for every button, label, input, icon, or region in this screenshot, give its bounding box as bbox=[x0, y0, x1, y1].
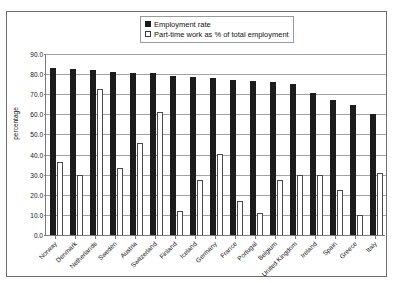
bar-group-portugal bbox=[246, 54, 266, 235]
x-axis-tick-mark bbox=[75, 236, 76, 239]
chart-legend: Employment rate Part-time work as % of t… bbox=[140, 16, 294, 43]
legend-label-part-time-work: Part-time work as % of total employment bbox=[154, 30, 289, 39]
y-axis-title: percentage bbox=[12, 94, 19, 154]
chart-frame: Employment rate Part-time work as % of t… bbox=[6, 11, 387, 277]
legend-swatch-hollow-square-icon bbox=[145, 31, 151, 37]
bar-group-switzerland bbox=[146, 54, 166, 235]
x-axis-tick-mark bbox=[255, 236, 256, 239]
bar-groups bbox=[46, 54, 386, 235]
legend-item-part-time-work: Part-time work as % of total employment bbox=[145, 29, 289, 39]
x-axis-label-portugal: Portugal bbox=[236, 240, 259, 263]
bar-employment-rate-united-kingdom bbox=[290, 84, 296, 235]
bar-employment-rate-germany bbox=[210, 78, 216, 235]
y-axis-tick-40-0: 40.0 bbox=[30, 152, 43, 159]
bar-part-time-finland bbox=[177, 211, 183, 235]
bar-group-greece bbox=[346, 54, 366, 235]
bar-group-belgium bbox=[266, 54, 286, 235]
x-axis-tick-mark bbox=[115, 236, 116, 239]
bar-employment-rate-denmark bbox=[70, 69, 76, 235]
x-axis-tick-mark bbox=[215, 236, 216, 239]
bar-part-time-france bbox=[237, 201, 243, 235]
x-axis-tick-mark bbox=[195, 236, 196, 239]
bar-part-time-denmark bbox=[77, 175, 83, 235]
bar-group-denmark bbox=[66, 54, 86, 235]
x-axis-tick-mark bbox=[275, 236, 276, 239]
bar-employment-rate-switzerland bbox=[150, 73, 156, 235]
bar-employment-rate-sweden bbox=[110, 72, 116, 235]
bar-group-norway bbox=[46, 54, 66, 235]
bar-part-time-netherlands bbox=[97, 89, 103, 235]
x-axis-label-greece: Greece bbox=[338, 240, 359, 261]
bar-group-italy bbox=[366, 54, 386, 235]
legend-item-employment-rate: Employment rate bbox=[145, 19, 289, 29]
y-axis-tick-labels: 90.080.070.060.050.040.030.020.010.00.0 bbox=[15, 48, 43, 242]
y-axis-tick-70-0: 70.0 bbox=[30, 91, 43, 98]
y-axis-tick-80-0: 80.0 bbox=[30, 71, 43, 78]
bar-part-time-belgium bbox=[277, 180, 283, 235]
x-axis-label-ireland: Ireland bbox=[299, 240, 319, 260]
bar-part-time-portugal bbox=[257, 213, 263, 235]
bar-group-ireland bbox=[306, 54, 326, 235]
x-axis-tick-mark bbox=[315, 236, 316, 239]
x-axis-tick-mark bbox=[355, 236, 356, 239]
bar-employment-rate-netherlands bbox=[90, 70, 96, 235]
y-axis-tick-50-0: 50.0 bbox=[30, 131, 43, 138]
y-axis-tick-60-0: 60.0 bbox=[30, 111, 43, 118]
bar-part-time-germany bbox=[217, 154, 223, 235]
bar-part-time-sweden bbox=[117, 168, 123, 235]
x-axis-tick-mark bbox=[55, 236, 56, 239]
x-axis-tick-mark bbox=[295, 236, 296, 239]
bar-group-germany bbox=[206, 54, 226, 235]
bar-employment-rate-france bbox=[230, 80, 236, 235]
bar-group-austria bbox=[126, 54, 146, 235]
y-axis-tick-10-0: 10.0 bbox=[30, 212, 43, 219]
bar-part-time-italy bbox=[377, 173, 383, 235]
cropped-title-remnant bbox=[0, 0, 394, 9]
bar-part-time-norway bbox=[57, 162, 63, 235]
bar-group-sweden bbox=[106, 54, 126, 235]
legend-label-employment-rate: Employment rate bbox=[154, 20, 211, 29]
bar-employment-rate-austria bbox=[130, 73, 136, 235]
bar-employment-rate-greece bbox=[350, 105, 356, 235]
bar-employment-rate-norway bbox=[50, 68, 56, 235]
x-axis-label-italy: Italy bbox=[365, 240, 379, 254]
bar-part-time-greece bbox=[357, 215, 363, 235]
x-axis-tick-mark bbox=[135, 236, 136, 239]
x-axis-tick-mark bbox=[155, 236, 156, 239]
bar-part-time-spain bbox=[337, 190, 343, 235]
bar-employment-rate-finland bbox=[170, 76, 176, 235]
x-axis-tick-mark bbox=[95, 236, 96, 239]
bar-employment-rate-iceland bbox=[190, 77, 196, 235]
y-axis-tick-20-0: 20.0 bbox=[30, 192, 43, 199]
bar-employment-rate-belgium bbox=[270, 82, 276, 235]
x-axis-label-spain: Spain bbox=[321, 240, 338, 257]
x-axis-tick-mark bbox=[375, 236, 376, 239]
bar-group-france bbox=[226, 54, 246, 235]
x-axis-label-finland: Finland bbox=[158, 240, 179, 261]
x-axis-label-sweden: Sweden bbox=[96, 240, 118, 262]
bar-group-spain bbox=[326, 54, 346, 235]
x-axis-tick-mark bbox=[335, 236, 336, 239]
plot-area bbox=[45, 54, 385, 236]
bar-group-netherlands bbox=[86, 54, 106, 235]
bar-part-time-united-kingdom bbox=[297, 175, 303, 235]
x-axis-tick-mark bbox=[235, 236, 236, 239]
bar-group-finland bbox=[166, 54, 186, 235]
chart-screenshot: Employment rate Part-time work as % of t… bbox=[0, 0, 394, 283]
legend-swatch-filled-square-icon bbox=[145, 21, 151, 27]
bar-part-time-iceland bbox=[197, 180, 203, 235]
bar-employment-rate-spain bbox=[330, 100, 336, 235]
bar-part-time-austria bbox=[137, 143, 143, 236]
bar-group-iceland bbox=[186, 54, 206, 235]
bar-employment-rate-ireland bbox=[310, 93, 316, 235]
y-axis-tick-0-0: 0.0 bbox=[34, 232, 43, 239]
bar-group-united-kingdom bbox=[286, 54, 306, 235]
x-axis-label-germany: Germany bbox=[194, 240, 219, 265]
y-axis-tick-30-0: 30.0 bbox=[30, 172, 43, 179]
bar-part-time-switzerland bbox=[157, 112, 163, 235]
bar-employment-rate-italy bbox=[370, 114, 376, 235]
y-axis-tick-90-0: 90.0 bbox=[30, 51, 43, 58]
x-axis-tick-mark bbox=[175, 236, 176, 239]
x-axis-category-labels: NorwayDenmarkNetherlandsSwedenAustriaSwi… bbox=[45, 236, 385, 283]
bar-employment-rate-portugal bbox=[250, 81, 256, 235]
